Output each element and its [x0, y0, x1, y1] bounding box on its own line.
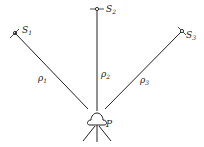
range-label-1: ρ1	[37, 73, 47, 84]
satellite-label-3: S3	[186, 30, 196, 41]
range-line-1	[15, 33, 88, 109]
satellite-icon-2	[90, 7, 104, 10]
range-line-3	[105, 31, 182, 109]
receiver-label: P	[105, 119, 113, 129]
diagram-canvas: S1 S2 S3 ρ1 ρ2 ρ3 P	[0, 0, 204, 147]
satellite-icon-1	[10, 29, 19, 38]
range-label-3: ρ3	[139, 75, 149, 86]
positioning-diagram: S1 S2 S3 ρ1 ρ2 ρ3 P	[0, 0, 204, 147]
satellite-label-1: S1	[22, 25, 32, 36]
range-label-2: ρ2	[100, 69, 110, 80]
satellite-label-2: S2	[106, 4, 116, 15]
